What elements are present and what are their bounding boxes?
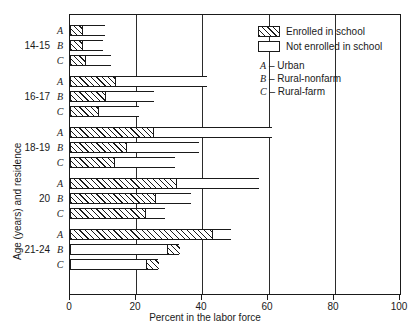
row-label-14-15-C: C [54, 54, 66, 65]
legend-label-enrolled: Enrolled in school [286, 26, 365, 37]
bar-21-24-C [70, 259, 158, 270]
segment-not-enrolled [99, 107, 140, 116]
legend-key-B: B – Rural-nonfarm [258, 72, 388, 85]
segment-enrolled [71, 56, 86, 65]
segment-enrolled [71, 77, 116, 86]
legend-label-not-enrolled: Not enrolled in school [286, 41, 382, 52]
age-group-label-14-15: 14-15 [18, 39, 50, 50]
segment-divider [155, 194, 156, 203]
segment-not-enrolled [115, 158, 177, 167]
bar-16-17-A [70, 76, 207, 87]
segment-divider [126, 143, 127, 152]
legend: Enrolled in school Not enrolled in schoo… [258, 24, 388, 98]
x-tick-label-0: 0 [66, 301, 72, 312]
hatch-swatch-icon [258, 26, 280, 37]
bar-18-19-A [70, 127, 272, 138]
legend-key-A: A – Urban [258, 59, 388, 72]
bar-20-B [70, 193, 191, 204]
segment-enrolled [71, 158, 115, 167]
segment-enrolled [147, 260, 159, 269]
segment-divider [85, 56, 86, 65]
bar-21-24-A [70, 229, 231, 240]
bar-18-19-C [70, 157, 175, 168]
row-label-20-A: A [54, 177, 66, 188]
bar-16-17-B [70, 91, 154, 102]
segment-not-enrolled [106, 92, 156, 101]
segment-divider [114, 158, 115, 167]
row-label-14-15-A: A [54, 24, 66, 35]
segment-enrolled [168, 245, 180, 254]
row-label-16-17-A: A [54, 75, 66, 86]
segment-not-enrolled [156, 194, 192, 203]
x-tick-40 [201, 295, 202, 300]
segment-not-enrolled [71, 245, 168, 254]
segment-divider [146, 260, 147, 269]
x-tick-label-60: 60 [261, 301, 272, 312]
segment-divider [98, 107, 99, 116]
x-tick-label-100: 100 [391, 301, 408, 312]
y-axis-title: Age (years) and residence [12, 143, 23, 260]
age-group-label-16-17: 16-17 [18, 90, 50, 101]
segment-not-enrolled [127, 143, 200, 152]
segment-enrolled [71, 128, 154, 137]
segment-divider [115, 77, 116, 86]
segment-divider [167, 245, 168, 254]
row-label-18-19-A: A [54, 126, 66, 137]
row-label-18-19-C: C [54, 156, 66, 167]
segment-divider [176, 179, 177, 188]
bar-14-15-C [70, 55, 111, 66]
legend-row-not-enrolled: Not enrolled in school [258, 39, 388, 53]
segment-enrolled [71, 107, 99, 116]
gridline-40 [202, 15, 203, 294]
legend-key-C: C – Rural-farm [258, 85, 388, 98]
row-label-21-24-C: C [54, 258, 66, 269]
segment-not-enrolled [154, 128, 272, 137]
row-label-18-19-B: B [54, 141, 66, 152]
segment-enrolled [71, 194, 156, 203]
segment-enrolled [71, 143, 127, 152]
x-tick-60 [267, 295, 268, 300]
segment-divider [82, 26, 83, 35]
x-axis-title: Percent in the labor force [0, 312, 410, 323]
legend-row-enrolled: Enrolled in school [258, 24, 388, 38]
bar-16-17-C [70, 106, 139, 117]
row-label-20-C: C [54, 207, 66, 218]
bar-18-19-B [70, 142, 199, 153]
legend-key-label: – Rural-farm [267, 86, 325, 97]
chart-root: ABC14-15ABC16-17ABC18-19ABC20ABC21-24 Ag… [0, 0, 410, 328]
segment-divider [82, 41, 83, 50]
x-tick-100 [399, 295, 400, 300]
segment-not-enrolled [86, 56, 112, 65]
legend-key-label: – Urban [266, 60, 304, 71]
bar-14-15-B [70, 40, 103, 51]
segment-enrolled [71, 230, 213, 239]
row-label-16-17-C: C [54, 105, 66, 116]
bar-20-A [70, 178, 259, 189]
legend-key-label: – Rural-nonfarm [266, 73, 341, 84]
row-label-20-B: B [54, 192, 66, 203]
segment-not-enrolled [146, 209, 166, 218]
x-tick-label-20: 20 [129, 301, 140, 312]
bar-20-C [70, 208, 165, 219]
x-tick-label-80: 80 [327, 301, 338, 312]
legend-residence-keys: A – UrbanB – Rural-nonfarmC – Rural-farm [258, 59, 388, 98]
segment-not-enrolled [177, 179, 260, 188]
segment-not-enrolled [213, 230, 232, 239]
segment-divider [153, 128, 154, 137]
row-label-21-24-B: B [54, 243, 66, 254]
segment-enrolled [71, 209, 146, 218]
white-swatch-icon [258, 41, 280, 52]
legend-key-letter: C [260, 86, 267, 97]
segment-not-enrolled [83, 26, 106, 35]
row-label-14-15-B: B [54, 39, 66, 50]
segment-divider [212, 230, 213, 239]
segment-not-enrolled [116, 77, 208, 86]
segment-divider [145, 209, 146, 218]
row-label-16-17-B: B [54, 90, 66, 101]
x-tick-0 [69, 295, 70, 300]
bar-14-15-A [70, 25, 105, 36]
row-label-21-24-A: A [54, 228, 66, 239]
segment-enrolled [71, 179, 177, 188]
x-tick-20 [135, 295, 136, 300]
x-tick-label-40: 40 [195, 301, 206, 312]
